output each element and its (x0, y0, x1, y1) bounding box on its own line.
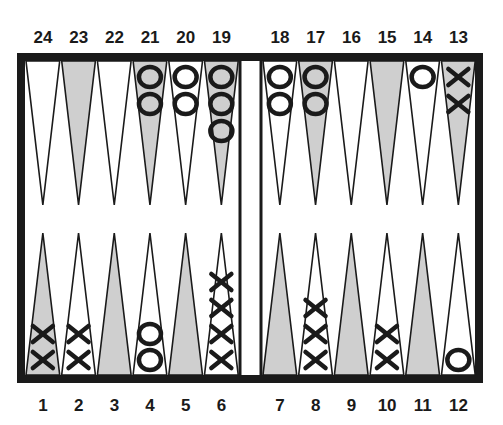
backgammon-board (0, 0, 503, 425)
